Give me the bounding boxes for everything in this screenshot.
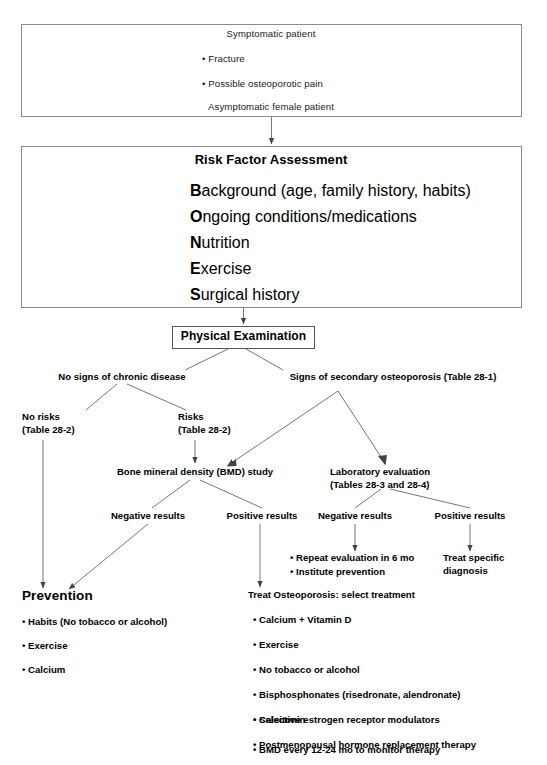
intake-symptomatic-label: Symptomatic patient xyxy=(227,28,316,39)
risk-item-ongoing-rest: ngoing conditions/medications xyxy=(202,208,416,225)
bmd-positive-results-label: Positive results xyxy=(227,510,298,521)
prevention-item-exercise-text: Exercise xyxy=(28,640,67,651)
intake-bullet-pain: • Possible osteoporotic pain xyxy=(202,78,323,89)
risk-item-surgical-rest: urgical history xyxy=(201,286,300,303)
arrowhead-signs-to-lab xyxy=(378,455,387,466)
prevention-item-habits-text: Habits (No tobacco or alcohol) xyxy=(28,616,167,627)
line-nosigns-to-risks xyxy=(127,384,186,410)
risk-item-background-rest: ackground (age, family history, habits) xyxy=(202,182,471,199)
prevention-item-calcium: • Calcium xyxy=(22,664,65,675)
lab-negative-action-repeat-text: Repeat evaluation in 6 mo xyxy=(296,552,414,563)
treatment-item-exercise: • Exercise xyxy=(253,639,299,650)
treatment-item-bisphosphonates-text: Bisphosphonates (risedronate, alendronat… xyxy=(259,689,461,700)
physical-examination-label: Physical Examination xyxy=(181,330,306,344)
branch-signs-label: Signs of secondary osteoporosis (Table 2… xyxy=(290,371,497,382)
treatment-item-calcium-text: Calcium + Vitamin D xyxy=(259,614,351,625)
laboratory-evaluation-line1: Laboratory evaluation xyxy=(330,466,430,477)
intake-bullet-fracture-text: Fracture xyxy=(208,53,245,64)
risk-item-exercise-rest: xercise xyxy=(201,260,252,277)
line-bmd-to-negative xyxy=(152,480,190,508)
risk-item-background: Background (age, family history, habits) xyxy=(190,182,471,200)
intake-asymptomatic-label: Asymptomatic female patient xyxy=(208,101,334,112)
branch-no-risks-line1: No risks xyxy=(22,411,75,422)
prevention-item-exercise: • Exercise xyxy=(22,640,68,651)
lab-positive-action-line2: diagnosis xyxy=(443,565,504,576)
lab-positive-action: Treat specific diagnosis xyxy=(443,552,504,576)
treatment-item-calcium: • Calcium + Vitamin D xyxy=(253,614,351,625)
risk-item-nutrition-rest: utrition xyxy=(202,234,250,251)
treatment-item-bmd-monitoring-text: BMD every 12-24 mo to monitor therapy xyxy=(259,744,440,755)
lab-negative-action-prevention-text: Institute prevention xyxy=(296,566,385,577)
prevention-item-calcium-text: Calcium xyxy=(28,664,65,675)
bmd-negative-results-label: Negative results xyxy=(111,510,185,521)
treatment-item-index-5: • Selective estrogen receptor modulators xyxy=(253,714,440,725)
treatment-item-no-tobacco: • No tobacco or alcohol xyxy=(253,664,360,675)
flowchart-canvas: Symptomatic patient • Fracture • Possibl… xyxy=(0,0,547,765)
prevention-heading: Prevention xyxy=(22,588,93,604)
line-lab-to-negative xyxy=(355,489,381,508)
risk-item-surgical-initial: S xyxy=(190,286,201,303)
treatment-item-no-tobacco-text: No tobacco or alcohol xyxy=(259,664,360,675)
lab-positive-results-label: Positive results xyxy=(435,510,506,521)
risk-item-ongoing-initial: O xyxy=(190,208,202,225)
risk-item-nutrition: Nutrition xyxy=(190,234,250,252)
line-bmd-to-positive xyxy=(200,480,262,508)
treatment-item-index-5-text: Selective estrogen receptor modulators xyxy=(259,714,440,725)
line-exam-to-nosigns xyxy=(185,349,228,370)
branch-risks-line2: (Table 28-2) xyxy=(178,424,231,435)
risk-item-exercise-initial: E xyxy=(190,260,201,277)
intake-bullet-pain-text: Possible osteoporotic pain xyxy=(208,78,323,89)
intake-bullet-fracture: • Fracture xyxy=(202,53,245,64)
treatment-heading: Treat Osteoporosis: select treatment xyxy=(248,589,415,600)
treatment-item-bmd-monitoring: • BMD every 12-24 mo to monitor therapy xyxy=(253,744,440,755)
line-lab-to-positive xyxy=(390,489,470,508)
bmd-study-label: Bone mineral density (BMD) study xyxy=(117,466,273,477)
laboratory-evaluation-line2: (Tables 28-3 and 28-4) xyxy=(330,479,430,490)
lab-negative-results-label: Negative results xyxy=(318,510,392,521)
prevention-item-habits: • Habits (No tobacco or alcohol) xyxy=(22,616,167,627)
risk-item-surgical: Surgical history xyxy=(190,286,299,304)
branch-no-risks-line2: (Table 28-2) xyxy=(22,424,75,435)
branch-no-signs-label: No signs of chronic disease xyxy=(58,371,185,382)
arrowhead-signs-bmd xyxy=(228,389,336,465)
branch-no-risks-label: No risks (Table 28-2) xyxy=(22,411,75,435)
risk-item-exercise: Exercise xyxy=(190,260,251,278)
lab-positive-action-line1: Treat specific xyxy=(443,552,504,563)
line-signs-fan xyxy=(227,391,385,466)
branch-risks-label: Risks (Table 28-2) xyxy=(178,411,231,435)
branch-risks-line1: Risks xyxy=(178,411,231,422)
arrow-bmdneg-to-prevention xyxy=(69,524,148,589)
risk-item-background-initial: B xyxy=(190,182,202,199)
line-nosigns-to-norisks xyxy=(86,384,117,410)
treatment-item-bisphosphonates: • Bisphosphonates (risedronate, alendron… xyxy=(253,689,461,700)
laboratory-evaluation-label: Laboratory evaluation (Tables 28-3 and 2… xyxy=(330,466,430,490)
risk-item-nutrition-initial: N xyxy=(190,234,202,251)
risk-item-ongoing: Ongoing conditions/medications xyxy=(190,208,417,226)
lab-negative-action-prevention: • Institute prevention xyxy=(290,566,385,577)
lab-negative-action-repeat: • Repeat evaluation in 6 mo xyxy=(290,552,414,563)
line-exam-to-signs xyxy=(246,349,283,370)
treatment-item-exercise-text: Exercise xyxy=(259,639,298,650)
risk-factor-box xyxy=(21,146,522,308)
risk-factor-heading: Risk Factor Assessment xyxy=(195,153,348,168)
